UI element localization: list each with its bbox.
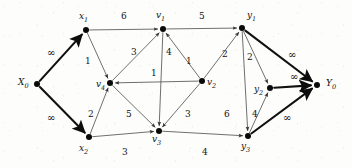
edge-capacity-label: 4 bbox=[166, 48, 172, 57]
graph-edge bbox=[40, 87, 85, 133]
edge-capacity-label: ∞ bbox=[47, 48, 55, 58]
node-label-subscript: 3 bbox=[157, 139, 161, 147]
graph-node bbox=[160, 26, 166, 32]
edge-capacity-label: 2 bbox=[247, 53, 253, 62]
edge-capacity-label: 3 bbox=[122, 148, 128, 157]
node-label-subscript: 1 bbox=[84, 16, 88, 24]
node-label: v4 bbox=[96, 80, 105, 91]
graph-edge bbox=[93, 131, 154, 136]
graph-edge bbox=[163, 84, 200, 127]
edge-capacity-label: 3 bbox=[131, 48, 137, 57]
edge-capacity-label: 5 bbox=[126, 110, 132, 119]
edge-capacity-label: 1 bbox=[85, 57, 91, 66]
graph-node bbox=[267, 85, 273, 91]
edge-capacity-label: 1 bbox=[186, 57, 192, 66]
edge-capacity-label: ∞ bbox=[47, 113, 55, 123]
edge-capacity-label: 1 bbox=[151, 69, 157, 78]
edge-capacity-label: 2 bbox=[88, 110, 94, 119]
node-label-subscript: 0 bbox=[332, 83, 336, 91]
edge-capacity-label: ∞ bbox=[283, 113, 291, 123]
node-label-subscript: 1 bbox=[161, 15, 165, 23]
edge-layer bbox=[40, 28, 312, 137]
graph-node bbox=[245, 133, 251, 139]
graph-node bbox=[83, 27, 89, 33]
node-label-subscript: 2 bbox=[84, 148, 88, 156]
node-label-subscript: 0 bbox=[24, 82, 28, 90]
graph-edge bbox=[113, 86, 156, 128]
edge-capacity-label: 4 bbox=[252, 110, 258, 119]
node-label: x1 bbox=[79, 12, 88, 23]
node-label-subscript: 1 bbox=[252, 15, 256, 23]
graph-edge bbox=[90, 29, 158, 30]
node-layer bbox=[34, 25, 320, 140]
node-label-subscript: 2 bbox=[259, 89, 263, 97]
node-label-subscript: 3 bbox=[246, 146, 250, 154]
graph-node bbox=[107, 80, 113, 86]
node-label-subscript: 2 bbox=[212, 82, 216, 90]
graph-node bbox=[314, 82, 320, 88]
edge-capacity-label: 4 bbox=[202, 148, 208, 157]
node-label: X0 bbox=[18, 78, 29, 89]
node-label: v1 bbox=[156, 11, 165, 22]
edge-capacity-label: 6 bbox=[121, 12, 127, 21]
graph-edge bbox=[242, 32, 248, 131]
graph-edge bbox=[159, 33, 163, 126]
node-label: Y0 bbox=[326, 79, 336, 90]
node-label: v3 bbox=[152, 135, 161, 146]
node-label: y1 bbox=[247, 11, 256, 22]
network-flow-diagram: ∞∞6123351415324264∞∞∞X0x1x2v4v1v2v3y1y2y… bbox=[0, 0, 352, 168]
graph-edge bbox=[163, 131, 243, 136]
edge-capacity-label: ∞ bbox=[288, 50, 296, 60]
node-label: y3 bbox=[241, 142, 250, 153]
edge-capacity-label: 3 bbox=[185, 110, 191, 119]
graph-node bbox=[199, 78, 205, 84]
node-label: x2 bbox=[79, 144, 88, 155]
edge-capacity-label: ∞ bbox=[290, 72, 298, 82]
graph-node bbox=[239, 25, 245, 31]
graph-node bbox=[86, 134, 92, 140]
edge-capacity-label: 6 bbox=[224, 110, 230, 119]
graph-edge bbox=[115, 81, 198, 83]
edge-capacity-label: 5 bbox=[199, 12, 205, 21]
node-label: v2 bbox=[207, 78, 216, 89]
node-label-subscript: 4 bbox=[101, 84, 105, 92]
graph-node bbox=[34, 81, 40, 87]
graph-canvas bbox=[0, 0, 352, 168]
node-label: y2 bbox=[254, 85, 263, 96]
graph-edge bbox=[167, 28, 237, 29]
graph-edge bbox=[274, 85, 311, 87]
edge-capacity-label: 2 bbox=[222, 50, 228, 59]
